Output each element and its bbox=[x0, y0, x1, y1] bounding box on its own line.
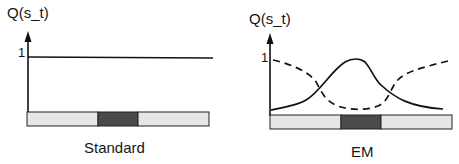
y-axis-label-em: Q(s_t) bbox=[249, 10, 291, 27]
diagram-canvas bbox=[0, 0, 459, 164]
y-axis-label-standard: Q(s_t) bbox=[7, 4, 49, 21]
caption-standard: Standard bbox=[84, 139, 145, 156]
panel-standard bbox=[25, 31, 214, 126]
constant-curve bbox=[28, 57, 213, 58]
sequence-bar-em bbox=[270, 115, 452, 129]
y-tick-1-em: 1 bbox=[261, 50, 268, 65]
panel-em bbox=[267, 33, 453, 129]
sequence-bar-standard bbox=[27, 112, 209, 126]
dip-curve bbox=[273, 60, 448, 109]
y-axis-arrow-icon bbox=[25, 31, 32, 42]
bar-dark-segment bbox=[341, 115, 381, 129]
y-tick-1-standard: 1 bbox=[18, 45, 25, 60]
bump-curve bbox=[271, 59, 443, 110]
bar-dark-segment bbox=[98, 112, 138, 126]
caption-em: EM bbox=[351, 143, 374, 160]
y-axis-arrow-icon bbox=[267, 33, 274, 44]
